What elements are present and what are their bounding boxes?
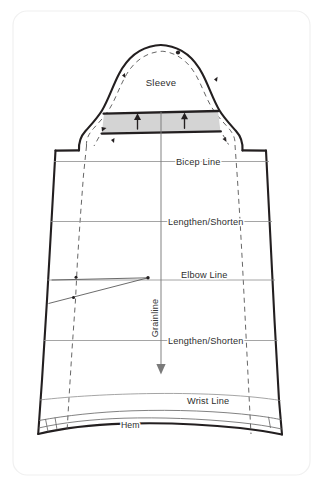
label-lengthen-shorten-upper: Lengthen/Shorten bbox=[168, 217, 243, 227]
label-hem: Hem bbox=[121, 420, 140, 430]
label-wrist-line: Wrist Line bbox=[187, 396, 229, 406]
label-elbow-line: Elbow Line bbox=[181, 270, 227, 280]
cap-center-notch-dot bbox=[176, 50, 180, 54]
sleeve-pattern-illustration: Sleeve Bicep Line Lengthen/Shorten Elbow… bbox=[0, 0, 323, 486]
label-lengthen-shorten-lower: Lengthen/Shorten bbox=[168, 336, 243, 346]
elbow-dart-notch-lower bbox=[72, 296, 75, 299]
elbow-dart-point bbox=[146, 276, 149, 279]
elbow-dart-notch-upper bbox=[75, 276, 78, 279]
label-bicep-line: Bicep Line bbox=[176, 157, 220, 167]
label-sleeve: Sleeve bbox=[146, 77, 177, 88]
label-grainline: Grainline bbox=[150, 299, 160, 338]
pattern-page: Sleeve Bicep Line Lengthen/Shorten Elbow… bbox=[0, 0, 323, 486]
